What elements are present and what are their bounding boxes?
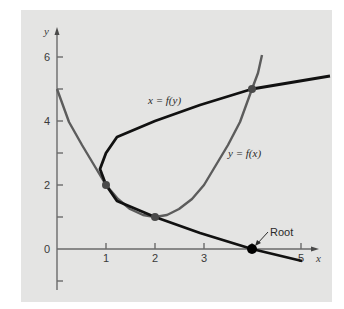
x-axis bbox=[57, 243, 314, 249]
y-tick-2: 2 bbox=[44, 179, 50, 191]
intersection-point-4-5 bbox=[248, 85, 256, 93]
y-tick-0: 0 bbox=[44, 243, 50, 255]
x-tick-3: 3 bbox=[201, 252, 207, 264]
chart-svg: y 6 4 2 0 1 2 3 5 x x = f(y) y = f(x) Ro… bbox=[0, 0, 344, 309]
root-label: Root bbox=[270, 226, 293, 238]
label-y-equals-f-of-x: y = f(x) bbox=[227, 147, 261, 160]
y-tick-6: 6 bbox=[44, 51, 50, 63]
x-axis-arrow-icon bbox=[311, 247, 319, 252]
label-x-equals-f-of-y: x = f(y) bbox=[147, 94, 181, 107]
y-tick-4: 4 bbox=[44, 115, 50, 127]
x-tick-2: 2 bbox=[152, 252, 158, 264]
y-axis-label: y bbox=[43, 25, 49, 37]
y-axis bbox=[57, 32, 63, 290]
intersection-point-1-2 bbox=[102, 181, 110, 189]
x-tick-1: 1 bbox=[103, 252, 109, 264]
curve-y-equals-f-of-x bbox=[57, 73, 155, 217]
intersection-point-2-1 bbox=[151, 213, 159, 221]
x-axis-label: x bbox=[315, 252, 321, 264]
y-axis-arrow-icon bbox=[55, 27, 60, 35]
curve-y-equals-f-of-x-line bbox=[57, 55, 262, 217]
